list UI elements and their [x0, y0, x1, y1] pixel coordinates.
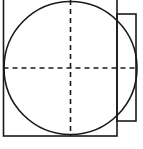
geometric-figure: [0, 0, 143, 149]
figure-canvas: [0, 0, 143, 149]
